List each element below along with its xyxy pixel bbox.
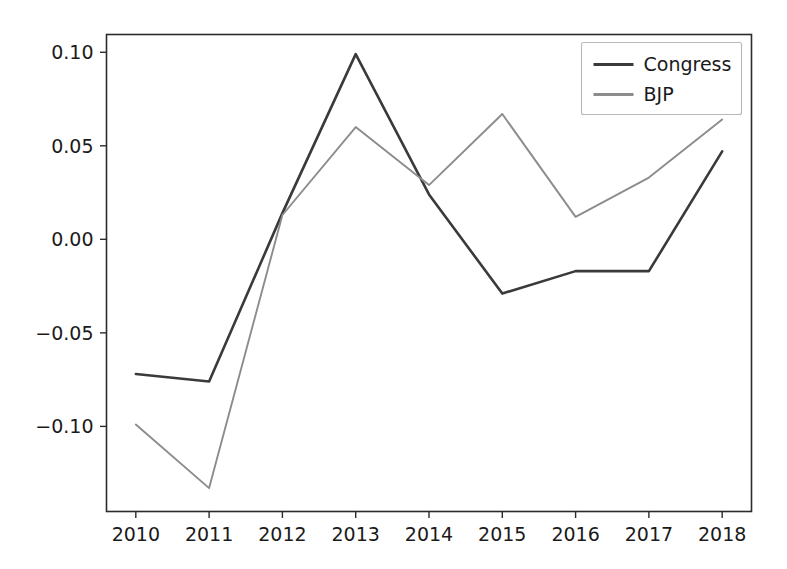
x-tick-label: 2017 (625, 523, 673, 545)
x-tick-label: 2016 (551, 523, 599, 545)
y-tick-label: 0.05 (51, 135, 93, 157)
x-tick-label: 2011 (185, 523, 233, 545)
y-tick-label: −0.10 (35, 415, 93, 437)
x-tick-label: 2014 (405, 523, 453, 545)
line-chart: 0.100.050.00−0.05−0.10201020112012201320… (0, 0, 787, 569)
y-tick-label: 0.10 (51, 41, 93, 63)
legend-label-bjp: BJP (644, 83, 674, 105)
series-line-bjp (136, 114, 722, 488)
x-tick-label: 2012 (258, 523, 306, 545)
x-tick-label: 2013 (332, 523, 380, 545)
x-tick-label: 2010 (112, 523, 160, 545)
legend-label-congress: Congress (644, 53, 732, 75)
y-tick-label: −0.05 (35, 322, 93, 344)
x-tick-label: 2018 (698, 523, 746, 545)
y-tick-label: 0.00 (51, 228, 93, 250)
x-tick-label: 2015 (478, 523, 526, 545)
chart-figure: 0.100.050.00−0.05−0.10201020112012201320… (0, 0, 787, 569)
